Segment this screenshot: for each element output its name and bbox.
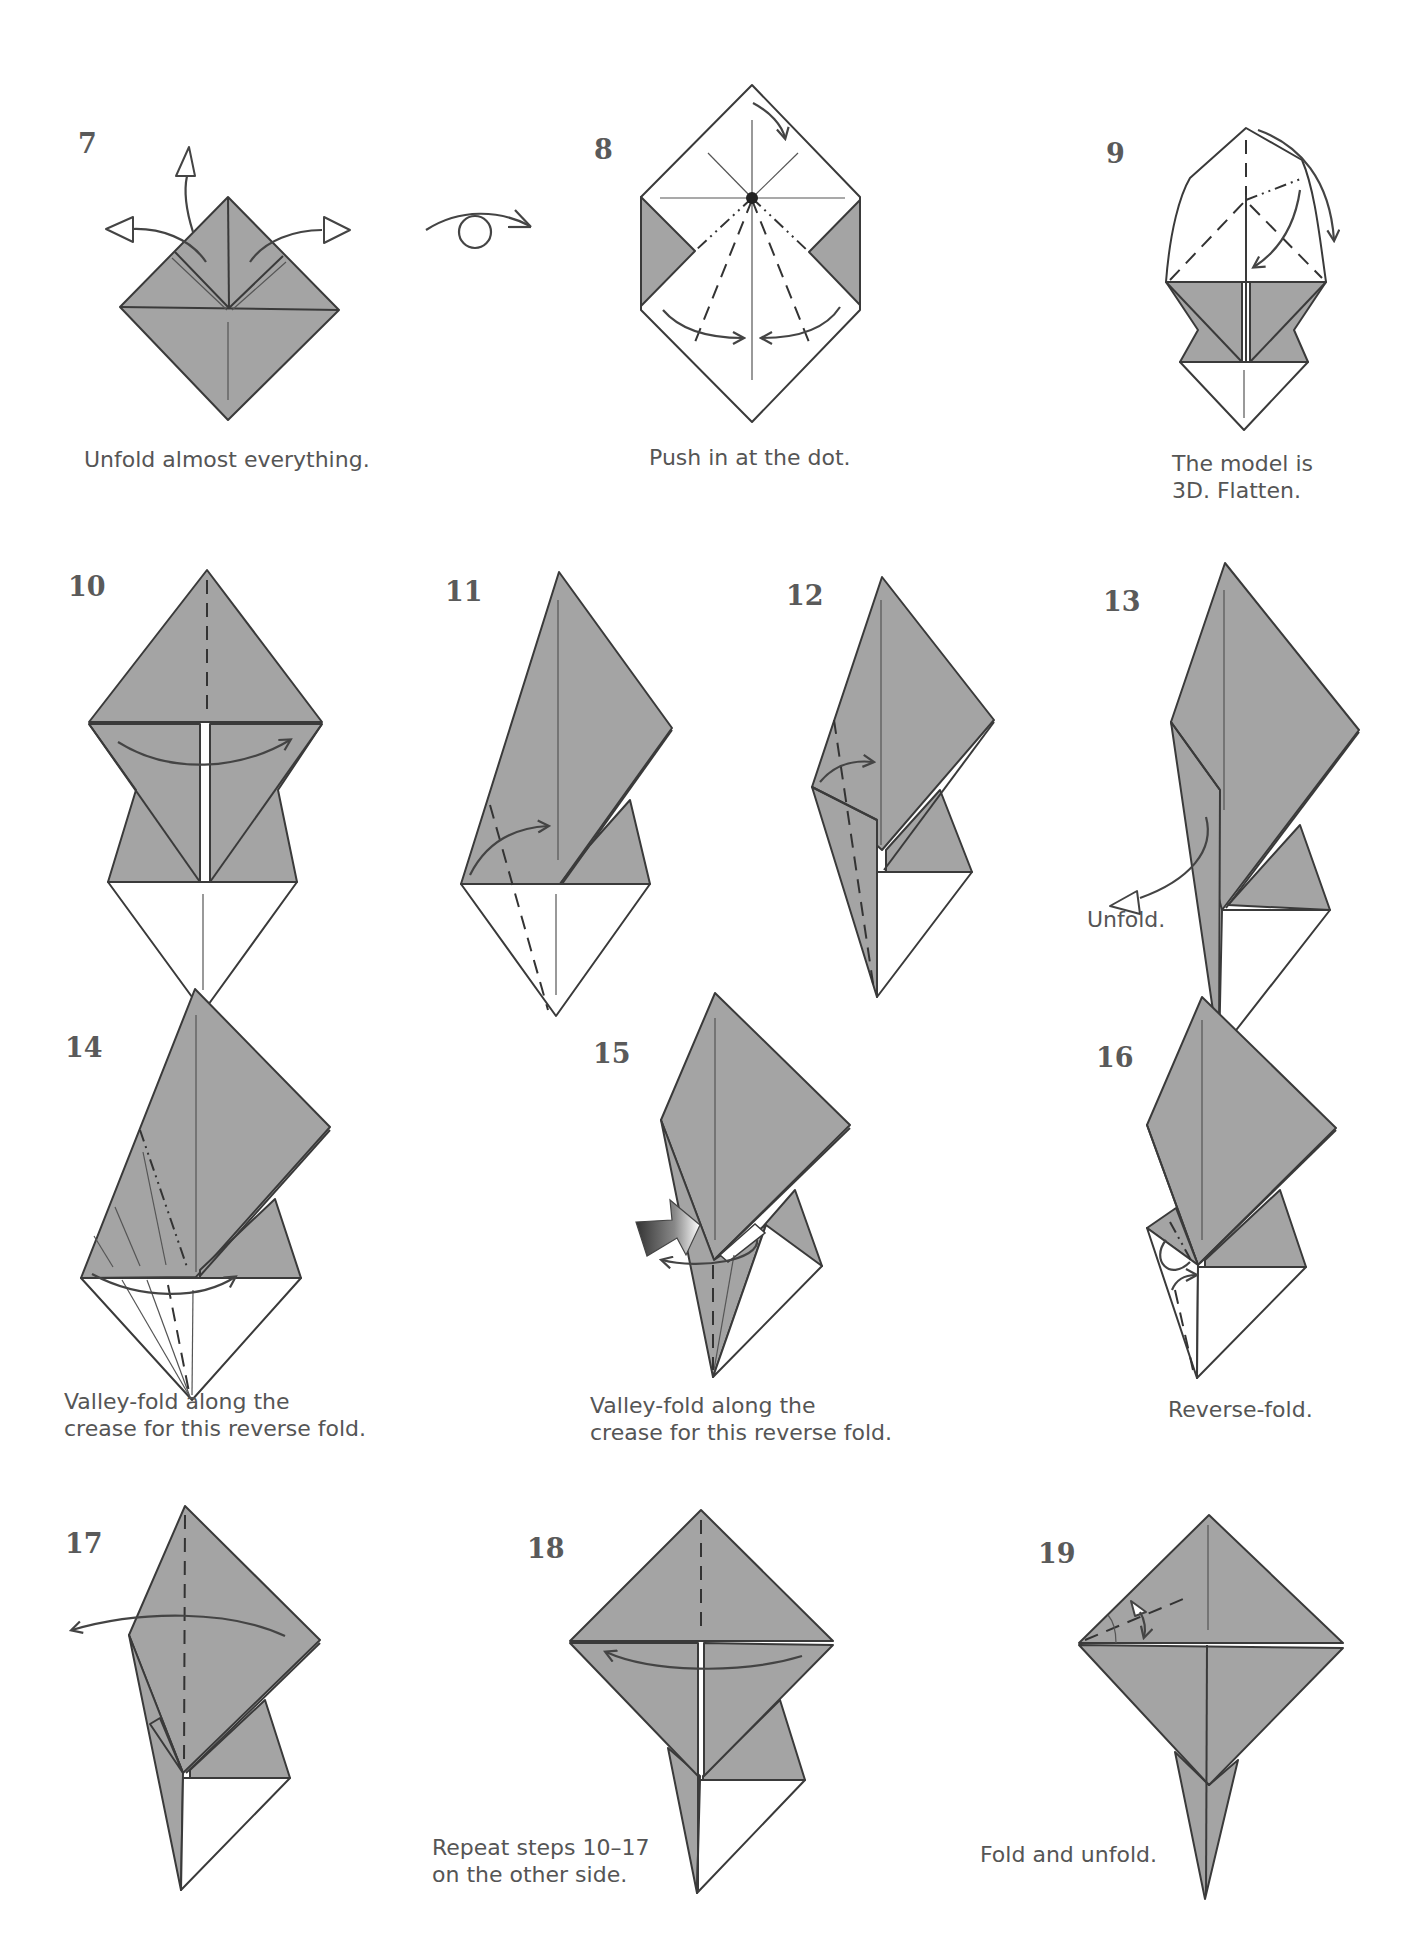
step-number-15: 15 [593,1040,631,1067]
step-number-19: 19 [1038,1540,1076,1567]
step-16-diagram [1147,997,1336,1378]
step-13-caption: Unfold. [1087,906,1165,933]
step-9-diagram [1166,128,1334,430]
step-number-18: 18 [527,1535,565,1562]
step-12-diagram [812,577,994,997]
turn-over-icon [426,210,531,248]
step-number-13: 13 [1103,588,1141,615]
step-number-9: 9 [1106,140,1125,167]
step-16-caption: Reverse-fold. [1168,1396,1313,1423]
unfold-arrow-left-icon [106,217,133,242]
step-10-diagram [89,570,322,1012]
origami-diagram-page: 7 8 9 10 11 12 13 14 15 16 17 18 19 Unfo… [0,0,1425,1936]
step-number-17: 17 [65,1530,103,1557]
unfold-arrow-up-icon [176,147,195,176]
step-14-caption: Valley-fold along the crease for this re… [64,1388,366,1442]
step-11-diagram [461,572,672,1016]
step-number-12: 12 [786,582,824,609]
step-18-caption: Repeat steps 10–17 on the other side. [432,1834,649,1888]
step-8-caption: Push in at the dot. [649,444,851,471]
step-number-8: 8 [594,136,613,163]
step-number-10: 10 [68,573,106,600]
step-13-diagram [1110,563,1359,1052]
step-7-caption: Unfold almost everything. [84,446,370,473]
step-number-14: 14 [65,1034,103,1061]
step-number-11: 11 [445,578,483,605]
step-17-diagram [72,1506,320,1890]
step-7-diagram [106,147,350,420]
step-8-diagram [641,85,860,422]
unfold-arrow-right-icon [324,217,350,243]
step-9-caption: The model is 3D. Flatten. [1172,450,1313,504]
step-15-caption: Valley-fold along the crease for this re… [590,1392,892,1446]
step-15-diagram [636,993,850,1377]
push-dot-icon [746,192,758,204]
step-19-caption: Fold and unfold. [980,1841,1157,1868]
step-number-7: 7 [78,130,97,157]
step-14-diagram [81,989,330,1400]
step-number-16: 16 [1096,1044,1134,1071]
